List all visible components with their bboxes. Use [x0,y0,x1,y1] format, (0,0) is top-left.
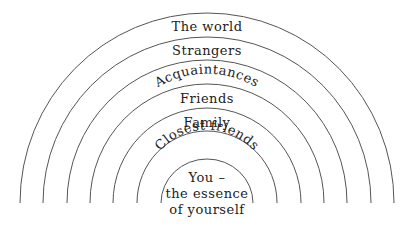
concentric-circles-diagram: The world Strangers Acquaintances Friend… [0,0,410,228]
label-core-line3: of yourself [169,202,245,217]
label-strangers: Strangers [172,43,242,58]
ring-labels: The world Strangers Acquaintances Friend… [151,19,262,217]
label-core-line1: You – [188,170,226,185]
label-the-world: The world [171,19,242,34]
label-core-line2: the essence [166,186,249,201]
label-closest-friends-path: Closest friends [152,118,263,153]
label-friends: Friends [180,91,234,106]
label-closest-friends: Closest friends [152,118,263,153]
